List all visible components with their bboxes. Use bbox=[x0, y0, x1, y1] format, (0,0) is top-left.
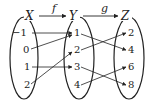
y-element: 1 bbox=[74, 27, 80, 38]
set-y-label: Y bbox=[69, 9, 78, 23]
z-element: 2 bbox=[128, 27, 134, 38]
mapping-diagram: X Y Z f g −1 0 1 2 1 2 3 4 2 4 6 8 bbox=[0, 0, 149, 102]
z-element: 6 bbox=[128, 61, 134, 72]
g-label: g bbox=[101, 2, 108, 15]
y-element: 3 bbox=[74, 61, 80, 72]
z-element: 4 bbox=[128, 44, 134, 55]
set-z-label: Z bbox=[120, 9, 130, 23]
set-x-label: X bbox=[24, 9, 34, 23]
f-label: f bbox=[51, 2, 58, 15]
x-element: −1 bbox=[12, 27, 27, 38]
x-element: 1 bbox=[24, 61, 30, 72]
x-element: 2 bbox=[24, 79, 30, 90]
y-element: 4 bbox=[74, 79, 80, 90]
x-element: 0 bbox=[23, 44, 29, 55]
y-element: 2 bbox=[74, 44, 80, 55]
z-element: 8 bbox=[128, 79, 134, 90]
